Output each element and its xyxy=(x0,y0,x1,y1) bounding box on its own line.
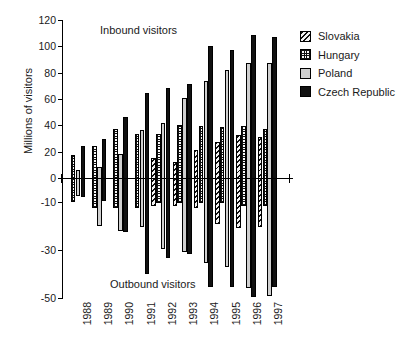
y-axis-tick xyxy=(58,46,63,47)
bar-hungary xyxy=(241,126,246,206)
bar-czech-republic xyxy=(166,88,171,259)
x-axis-tick-label: 1989 xyxy=(102,302,114,325)
legend-label: Czech Republic xyxy=(318,86,395,98)
legend-label: Hungary xyxy=(318,49,360,61)
bar-slovakia xyxy=(151,158,156,205)
x-axis-tick-label: 1990 xyxy=(123,302,135,325)
bar-group xyxy=(215,20,236,298)
bar-czech-republic xyxy=(272,37,277,287)
y-axis-tick-label: 20 xyxy=(44,146,56,158)
bar-poland xyxy=(118,154,123,231)
bar-hungary xyxy=(199,126,204,203)
legend-swatch-czech-republic-icon xyxy=(300,86,311,97)
bar-group xyxy=(194,20,215,298)
legend-item[interactable]: Czech Republic xyxy=(300,83,395,102)
y-axis-tick-label: 80 xyxy=(44,67,56,79)
chart-figure: Millions of visitors 120100806040200-10-… xyxy=(0,0,418,355)
bar-group xyxy=(236,20,257,298)
bar-czech-republic xyxy=(187,84,192,254)
bar-hungary xyxy=(220,127,225,204)
y-axis-tick xyxy=(58,20,63,21)
zero-baseline xyxy=(61,178,293,179)
bar-hungary xyxy=(156,134,161,203)
bar-poland xyxy=(76,170,81,196)
bar-czech-republic xyxy=(230,50,235,288)
bar-group xyxy=(258,20,279,298)
bar-hungary xyxy=(135,134,140,208)
x-axis-tick-label: 1992 xyxy=(166,302,178,325)
bar-poland xyxy=(246,63,251,288)
bar-hungary xyxy=(263,129,268,205)
y-axis-tick-label: 120 xyxy=(38,14,56,26)
bar-poland xyxy=(204,81,209,264)
legend-item[interactable]: Slovakia xyxy=(300,27,395,46)
zero-line-right-cap xyxy=(289,174,290,183)
bar-hungary xyxy=(92,146,97,208)
zero-line-left-cap xyxy=(61,174,62,183)
x-axis-tick-label: 1991 xyxy=(145,302,157,325)
x-axis-tick-label: 1994 xyxy=(208,302,220,325)
bar-group xyxy=(66,20,87,298)
y-axis-line xyxy=(62,20,63,298)
chart-legend: Slovakia Hungary Poland Czech Republic xyxy=(300,27,395,101)
bar-slovakia xyxy=(236,135,241,229)
y-axis-title: Millions of visitors xyxy=(22,31,34,191)
bar-hungary xyxy=(113,129,118,208)
y-axis-tick xyxy=(58,202,63,203)
y-axis-tick-label: 0 xyxy=(50,172,56,184)
bar-czech-republic xyxy=(123,117,128,232)
bar-group xyxy=(109,20,130,298)
bar-group xyxy=(130,20,151,298)
bar-poland xyxy=(97,167,102,226)
y-axis-tick xyxy=(58,298,63,299)
annotation-outbound: Outbound visitors xyxy=(110,278,196,290)
bar-poland xyxy=(225,70,230,267)
y-axis-tick-label: 100 xyxy=(38,40,56,52)
x-axis-tick-label: 1997 xyxy=(272,302,284,325)
legend-swatch-slovakia-icon xyxy=(300,31,311,42)
y-axis-tick xyxy=(58,125,63,126)
bar-group xyxy=(173,20,194,298)
x-axis-tick-label: 1993 xyxy=(187,302,199,325)
y-axis-tick xyxy=(58,250,63,251)
annotation-inbound: Inbound visitors xyxy=(100,24,177,36)
y-axis-tick xyxy=(58,152,63,153)
bar-group xyxy=(151,20,172,298)
bar-poland xyxy=(267,63,272,295)
bar-czech-republic xyxy=(102,139,107,201)
x-axis-tick-label: 1995 xyxy=(230,302,242,325)
bar-group xyxy=(87,20,108,298)
bar-czech-republic xyxy=(81,146,86,197)
legend-label: Slovakia xyxy=(318,30,360,42)
x-axis-tick-label: 1988 xyxy=(81,302,93,325)
legend-label: Poland xyxy=(318,67,352,79)
bar-slovakia xyxy=(173,162,178,206)
y-axis-tick xyxy=(58,73,63,74)
plot-area: 120100806040200-10-30-50 Inbound visitor… xyxy=(62,20,290,298)
bar-hungary xyxy=(177,125,182,203)
bar-poland xyxy=(161,123,166,249)
legend-item[interactable]: Hungary xyxy=(300,46,395,65)
legend-item[interactable]: Poland xyxy=(300,64,395,83)
bar-czech-republic xyxy=(251,35,256,297)
bar-czech-republic xyxy=(208,46,213,288)
y-axis-tick-label: -30 xyxy=(41,244,56,256)
y-axis-tick-label: -50 xyxy=(41,292,56,304)
y-axis-tick-label: 40 xyxy=(44,119,56,131)
bar-czech-republic xyxy=(145,93,150,274)
y-axis-tick xyxy=(58,99,63,100)
bar-poland xyxy=(182,98,187,253)
legend-swatch-hungary-icon xyxy=(300,49,311,60)
legend-swatch-poland-icon xyxy=(300,68,311,79)
bar-slovakia xyxy=(215,142,220,223)
bar-slovakia xyxy=(258,137,263,228)
x-axis-tick-label: 1996 xyxy=(251,302,263,325)
y-axis-tick-label: 60 xyxy=(44,93,56,105)
y-axis-tick-label: -10 xyxy=(41,196,56,208)
